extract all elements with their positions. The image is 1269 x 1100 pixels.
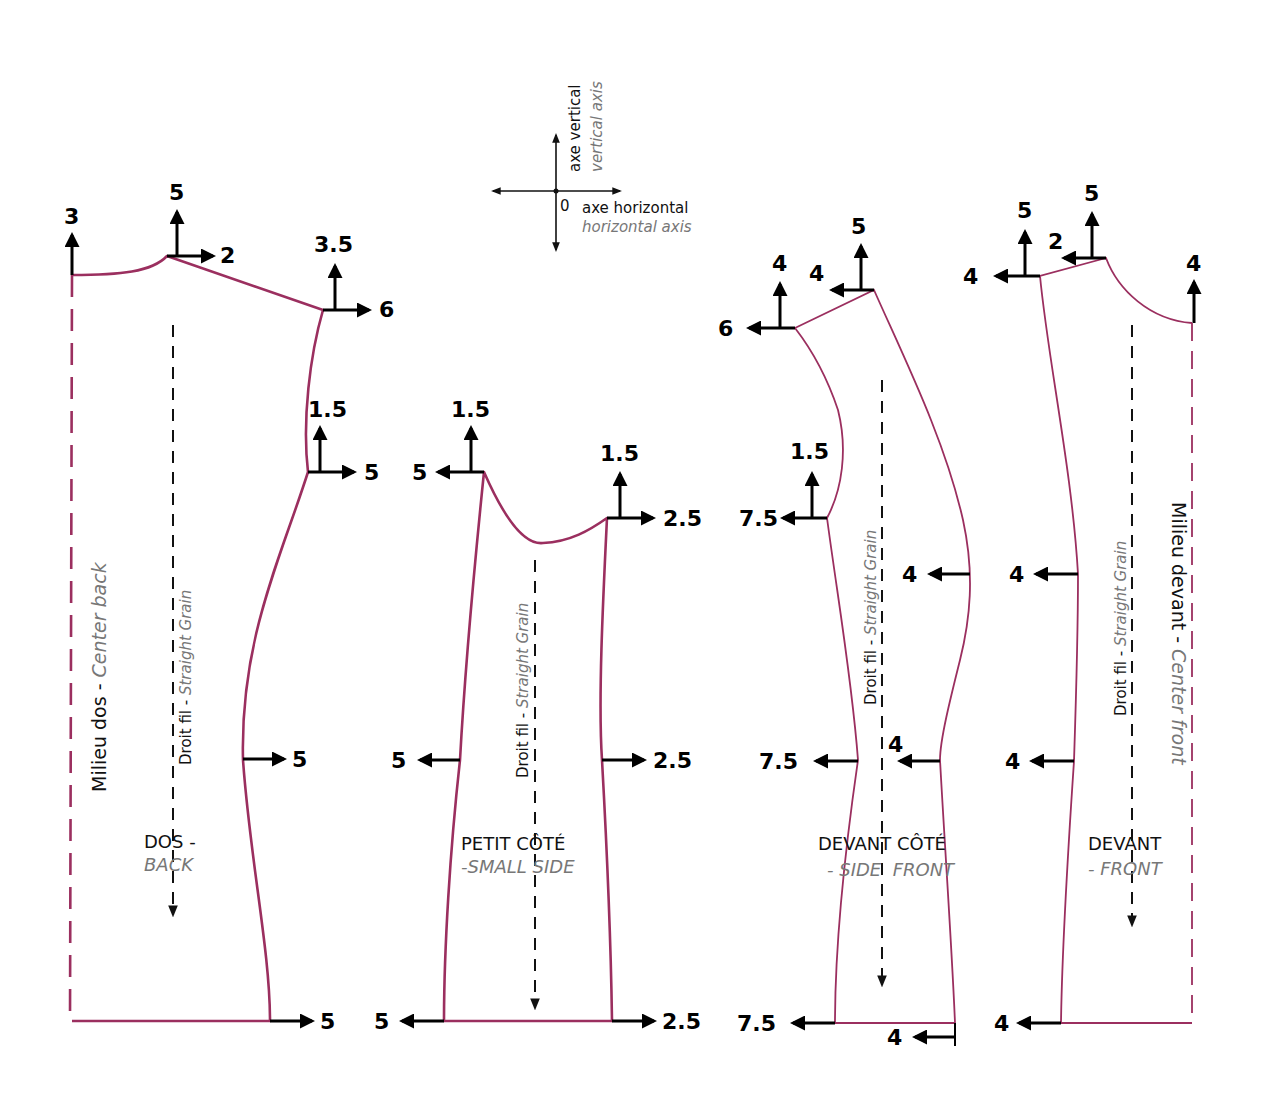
grade-value: 2	[220, 243, 235, 268]
piece-back: Droit fil - Straight Grain Milieu dos - …	[64, 180, 394, 1034]
grade-value: 5	[412, 460, 427, 485]
side-front-title-en: - SIDE FRONT	[827, 859, 956, 880]
grade-value: 4	[809, 261, 824, 286]
grade-value: 4	[887, 1025, 902, 1050]
side-front-title-fr: DEVANT CÔTÉ	[818, 833, 946, 854]
horizontal-axis-label-en: horizontal axis	[582, 218, 692, 236]
back-title-en: BACK	[144, 854, 194, 875]
front-title-en: - FRONT	[1088, 858, 1164, 879]
grade-value: 5	[169, 180, 184, 205]
grade-value: 7.5	[739, 506, 778, 531]
grade-value: 2	[1048, 229, 1063, 254]
center-front-label: Milieu devant - Center front	[1168, 502, 1190, 766]
grade-value: 1.5	[600, 441, 639, 466]
grade-value: 7.5	[759, 749, 798, 774]
piece-side-front: Droit fil - Straight Grain DEVANT CÔTÉ -…	[718, 214, 970, 1050]
grade-value: 5	[292, 747, 307, 772]
grade-value: 5	[1017, 198, 1032, 223]
small-side-title-en: -SMALL SIDE	[461, 856, 575, 877]
grade-value: 6	[379, 297, 394, 322]
grade-value: 4	[888, 732, 903, 757]
grade-value: 5	[851, 214, 866, 239]
grade-value: 3	[64, 204, 79, 229]
origin-label: 0	[560, 197, 570, 215]
center-back-line	[70, 275, 72, 1021]
back-title-fr: DOS -	[144, 831, 196, 852]
grade-value: 4	[1009, 562, 1024, 587]
grade-value: 7.5	[737, 1011, 776, 1036]
grade-value: 5	[374, 1009, 389, 1034]
grade-value: 2.5	[663, 506, 702, 531]
side-front-grainline-label: Droit fil - Straight Grain	[862, 530, 880, 705]
grade-value: 1.5	[308, 397, 347, 422]
grade-value: 2.5	[662, 1009, 701, 1034]
grade-value: 5	[320, 1009, 335, 1034]
grade-value: 1.5	[790, 439, 829, 464]
piece-small-side: Droit fil - Straight Grain PETIT CÔTÉ -S…	[374, 397, 702, 1034]
grade-value: 4	[902, 562, 917, 587]
back-grainline-label: Droit fil - Straight Grain	[177, 590, 195, 765]
vertical-axis-label-fr: axe vertical	[566, 84, 584, 172]
grade-value: 5	[1084, 181, 1099, 206]
pattern-grading-diagram: 0 axe horizontal horizontal axis axe ver…	[0, 0, 1269, 1100]
grade-value: 6	[718, 316, 733, 341]
vertical-axis-label-en: vertical axis	[588, 81, 606, 172]
piece-front: Droit fil - Straight Grain Milieu devant…	[963, 181, 1201, 1036]
grade-value: 1.5	[451, 397, 490, 422]
grade-value: 4	[994, 1011, 1009, 1036]
grade-value: 3.5	[314, 232, 353, 257]
center-back-label: Milieu dos - Center back	[88, 561, 110, 792]
grade-value: 2.5	[653, 748, 692, 773]
front-grainline-label: Droit fil - Straight Grain	[1112, 541, 1130, 716]
grade-value: 5	[364, 460, 379, 485]
horizontal-axis-label-fr: axe horizontal	[582, 199, 688, 217]
origin-dot-icon	[554, 189, 559, 194]
grade-value: 4	[772, 251, 787, 276]
axis-legend: 0 axe horizontal horizontal axis axe ver…	[493, 81, 692, 250]
small-side-grainline-label: Droit fil - Straight Grain	[514, 603, 532, 778]
grade-value: 5	[391, 748, 406, 773]
grade-value: 4	[1005, 749, 1020, 774]
grade-value: 4	[963, 264, 978, 289]
small-side-title-fr: PETIT CÔTÉ	[461, 833, 565, 854]
grade-value: 4	[1186, 251, 1201, 276]
front-title-fr: DEVANT	[1088, 833, 1162, 854]
